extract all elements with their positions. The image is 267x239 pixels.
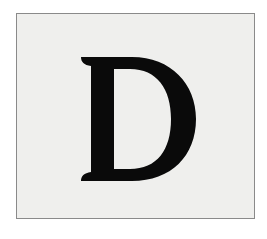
letter-d-glyph xyxy=(0,0,267,239)
